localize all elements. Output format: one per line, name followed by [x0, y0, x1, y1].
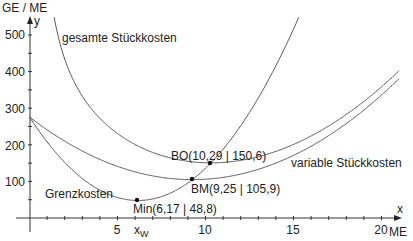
x-axis-unit: ME — [389, 225, 407, 239]
point-bm — [190, 177, 194, 181]
x-tick-label: 20 — [374, 223, 388, 237]
y-tick-label: 100 — [5, 175, 25, 189]
label-bm: BM(9,25 | 105,9) — [191, 182, 280, 196]
x-tick-label: 5 — [114, 223, 121, 237]
x-tick-label: 15 — [286, 223, 300, 237]
label-xw: xW — [134, 223, 149, 239]
cost-curves-chart: 5 10 15 20 100 200 300 400 500 GE / ME y… — [0, 0, 413, 241]
x-axis-variable: x — [397, 202, 403, 216]
label-gesamte-stueckkosten: gesamte Stückkosten — [62, 31, 177, 45]
y-axis-arrow-icon — [27, 16, 33, 24]
label-min: Min(6,17 | 48,8) — [133, 202, 217, 216]
y-tick-label: 400 — [5, 65, 25, 79]
y-tick-label: 300 — [5, 102, 25, 116]
y-axis-unit: GE / ME — [2, 1, 47, 15]
label-variable-stueckkosten: variable Stückkosten — [291, 156, 402, 170]
y-tick-label: 200 — [5, 139, 25, 153]
label-grenzkosten: Grenzkosten — [45, 187, 113, 201]
xw-sub: W — [140, 229, 149, 239]
y-axis-variable: y — [34, 14, 40, 28]
x-tick-label: 10 — [198, 223, 212, 237]
label-bo: BO(10,29 | 150,6) — [171, 149, 266, 163]
y-tick-label: 500 — [5, 28, 25, 42]
